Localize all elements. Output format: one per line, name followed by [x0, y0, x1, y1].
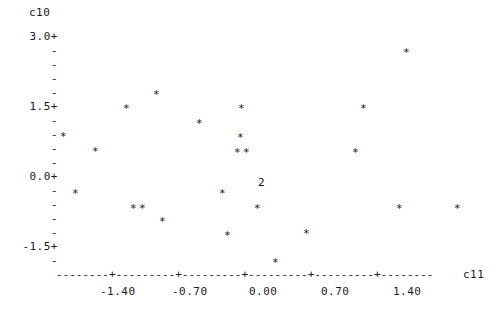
data-point-marker: * [196, 118, 203, 129]
data-point-marker: * [352, 147, 359, 158]
y-tick-label-0-0: 0.0+ [8, 170, 58, 183]
y-minor-tick-13: - [8, 254, 58, 267]
data-point-marker: * [403, 47, 410, 58]
data-point-marker: * [272, 257, 279, 268]
data-point-marker: * [72, 188, 79, 199]
data-point-marker: * [238, 103, 245, 114]
y-tick-label-neg-1-5: -1.5+ [8, 240, 58, 253]
data-point-marker: * [234, 147, 241, 158]
y-minor-tick-12: - [8, 226, 58, 239]
data-point-marker: * [139, 203, 146, 214]
data-point-marker: * [219, 188, 226, 199]
x-axis-title: c11 [463, 268, 484, 281]
y-minor-tick-9: - [8, 184, 58, 197]
x-tick-label-neg-0-70: -0.70 [172, 285, 208, 298]
y-minor-tick-8: - [8, 156, 58, 169]
scatter-plot-canvas: c10 3.0+ - - - - 1.5+ - - - - 0.0+ - - -… [0, 0, 499, 313]
y-tick-label-1-5: 1.5+ [8, 100, 58, 113]
data-point-marker: * [243, 147, 250, 158]
data-point-marker: * [153, 89, 160, 100]
x-tick-label-neg-1-40: -1.40 [100, 285, 136, 298]
data-point-marker: * [303, 228, 310, 239]
y-minor-tick-5: - [8, 114, 58, 127]
data-point-marker: * [237, 132, 244, 143]
x-axis-line: --------+---------+---------+---------+-… [56, 268, 434, 281]
y-minor-tick-6: - [8, 128, 58, 141]
y-minor-tick-1: - [8, 44, 58, 57]
y-minor-tick-4: - [8, 86, 58, 99]
x-tick-label-0-00: 0.00 [249, 285, 278, 298]
data-point-marker: * [130, 203, 137, 214]
x-tick-label-1-40: 1.40 [393, 285, 422, 298]
x-tick-label-0-70: 0.70 [321, 285, 350, 298]
y-minor-tick-10: - [8, 198, 58, 211]
data-point-marker: * [159, 216, 166, 227]
data-point-overlap-count: 2 [258, 177, 265, 188]
data-point-marker: * [396, 203, 403, 214]
y-axis-title: c10 [29, 6, 50, 19]
y-tick-label-3-0: 3.0+ [8, 30, 58, 43]
y-minor-tick-11: - [8, 212, 58, 225]
y-minor-tick-3: - [8, 72, 58, 85]
data-point-marker: * [360, 103, 367, 114]
data-point-marker: * [92, 146, 99, 157]
y-minor-tick-7: - [8, 142, 58, 155]
data-point-marker: * [254, 203, 261, 214]
y-minor-tick-2: - [8, 58, 58, 71]
data-point-marker: * [123, 103, 130, 114]
data-point-marker: * [224, 230, 231, 241]
data-point-marker: * [454, 203, 461, 214]
data-point-marker: * [60, 131, 67, 142]
